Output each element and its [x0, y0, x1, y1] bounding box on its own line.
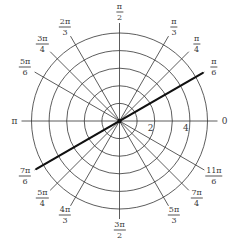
grid-spoke: [50, 52, 119, 121]
grid-spoke: [120, 121, 169, 206]
angle-label-denominator: 6: [211, 176, 216, 185]
angle-label: 0: [222, 117, 228, 126]
angle-label: 11π6: [205, 166, 222, 185]
angle-label-numerator: π: [116, 3, 123, 13]
angle-label-numerator: π: [170, 17, 177, 27]
angle-label-text: 0: [222, 116, 228, 126]
angle-label-numerator: π: [193, 34, 200, 44]
angle-label-denominator: 6: [23, 176, 28, 185]
angle-label-numerator: 11π: [205, 166, 222, 176]
angle-label: 5π3: [168, 206, 180, 225]
angle-label: 3π2: [113, 221, 125, 240]
angle-label-denominator: 4: [194, 199, 199, 208]
angle-label-numerator: 5π: [168, 206, 180, 216]
angle-label: π4: [193, 34, 200, 53]
angle-label: 5π6: [19, 57, 31, 76]
angle-label-numerator: 5π: [36, 189, 48, 199]
grid-spoke: [120, 36, 169, 121]
angle-label-denominator: 4: [194, 44, 199, 53]
angle-label-denominator: 4: [40, 199, 45, 208]
angle-label-numerator: 4π: [59, 206, 71, 216]
grid-spoke: [71, 36, 120, 121]
angle-label-denominator: 3: [171, 216, 176, 225]
radial-tick-label: 4: [183, 124, 189, 133]
angle-label: 2π3: [59, 17, 71, 36]
radial-tick-label: 2: [148, 124, 154, 133]
angle-label-numerator: 7π: [190, 189, 202, 199]
grid-spoke: [120, 121, 205, 170]
angle-label-denominator: 4: [40, 44, 45, 53]
angle-label-denominator: 2: [117, 13, 122, 22]
angle-label: π3: [170, 17, 177, 36]
angle-label: π2: [116, 3, 123, 22]
angle-label: 4π3: [59, 206, 71, 225]
angle-label: π: [12, 117, 18, 126]
angle-label-numerator: 2π: [59, 17, 71, 27]
angle-label: π6: [210, 57, 217, 76]
angle-label-denominator: 6: [211, 67, 216, 76]
angle-label-denominator: 2: [117, 231, 122, 240]
angle-label-denominator: 3: [62, 216, 67, 225]
grid-spoke: [35, 72, 120, 121]
angle-label: 5π4: [36, 189, 48, 208]
grid-spoke: [71, 121, 120, 206]
angle-label-denominator: 3: [62, 27, 67, 36]
angle-label-denominator: 3: [171, 27, 176, 36]
grid-spoke: [120, 121, 189, 190]
angle-label-numerator: 5π: [19, 57, 31, 67]
angle-label-numerator: π: [210, 57, 217, 67]
angle-label-numerator: 7π: [19, 166, 31, 176]
angle-label: 7π6: [19, 166, 31, 185]
origin-point: [117, 119, 121, 123]
angle-label-denominator: 6: [23, 67, 28, 76]
angle-label-numerator: 3π: [36, 34, 48, 44]
angle-label-numerator: 3π: [113, 221, 125, 231]
angle-label: 3π4: [36, 34, 48, 53]
angle-label-text: π: [12, 116, 18, 126]
angle-label: 7π4: [190, 189, 202, 208]
